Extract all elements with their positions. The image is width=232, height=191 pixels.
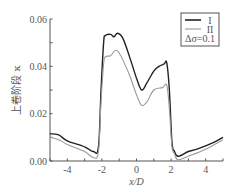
x-tick-label: -2 <box>98 164 106 175</box>
legend-annotation: Δσ=0.1 <box>185 33 215 44</box>
x-tick-label: 0 <box>134 164 139 175</box>
x-tick-label: 4 <box>203 164 208 175</box>
x-tick-label: 2 <box>169 164 174 175</box>
x-axis-label: x/D <box>128 176 144 187</box>
line-chart: 0.000.020.040.06-4-2024x/D上卷阶段 κ IIIΔσ=0… <box>0 0 232 191</box>
y-tick-label: 0.06 <box>30 14 48 25</box>
x-tick-label: -4 <box>63 164 71 175</box>
y-tick-label: 0.02 <box>30 108 48 119</box>
y-tick-label: 0.04 <box>30 61 48 72</box>
data-series <box>50 33 223 160</box>
y-axis-label: 上卷阶段 κ <box>10 65 22 115</box>
y-tick-label: 0.00 <box>30 156 48 167</box>
legend: IIIΔσ=0.1 <box>181 13 219 46</box>
